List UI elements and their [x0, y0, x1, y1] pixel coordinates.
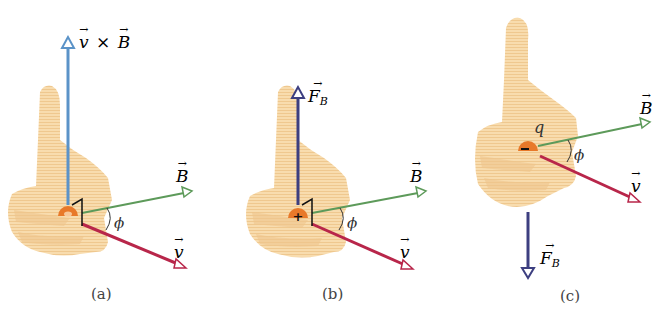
- v-label-c: →v: [631, 176, 641, 196]
- b-label-c: →B: [640, 98, 653, 118]
- charge-sign-b: +: [293, 209, 304, 224]
- phi-label-b: ϕ: [347, 214, 357, 232]
- force-label-c: →FB: [540, 248, 560, 270]
- vxb-label: →v × →B: [79, 32, 130, 52]
- caption-c: (c): [560, 287, 580, 305]
- panel-a: [8, 37, 192, 268]
- thumbs-up-hand-c: [475, 18, 578, 207]
- panel-c: [475, 18, 650, 278]
- charge-q-label: q: [534, 118, 544, 137]
- right-hand-rule-figure: + →v × →B →B →v ϕ (a) →FB →B →v ϕ (b) q …: [0, 0, 664, 321]
- force-label-b: →FB: [308, 86, 328, 108]
- b-label-b: →B: [410, 166, 423, 186]
- force-arrowhead-c: [522, 268, 534, 278]
- v-label-b: →v: [400, 242, 410, 262]
- panel-b: +: [246, 86, 426, 269]
- v-label-a: →v: [174, 242, 184, 262]
- phi-label-a: ϕ: [114, 214, 124, 232]
- phi-label-c: ϕ: [574, 146, 584, 164]
- b-label-a: →B: [176, 166, 189, 186]
- caption-a: (a): [91, 285, 112, 303]
- caption-b: (b): [322, 285, 343, 303]
- vxb-arrowhead: [62, 37, 74, 48]
